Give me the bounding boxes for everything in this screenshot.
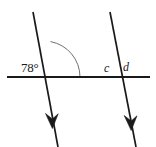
geometry-figure: 78° c d [0, 0, 156, 147]
angle-label-d: d [123, 61, 129, 73]
angle-label-c: c [104, 62, 109, 74]
angle-measure-label: 78° [21, 61, 39, 74]
parallel-ray-left [33, 12, 58, 147]
angle-arc-78-icon [51, 42, 81, 77]
